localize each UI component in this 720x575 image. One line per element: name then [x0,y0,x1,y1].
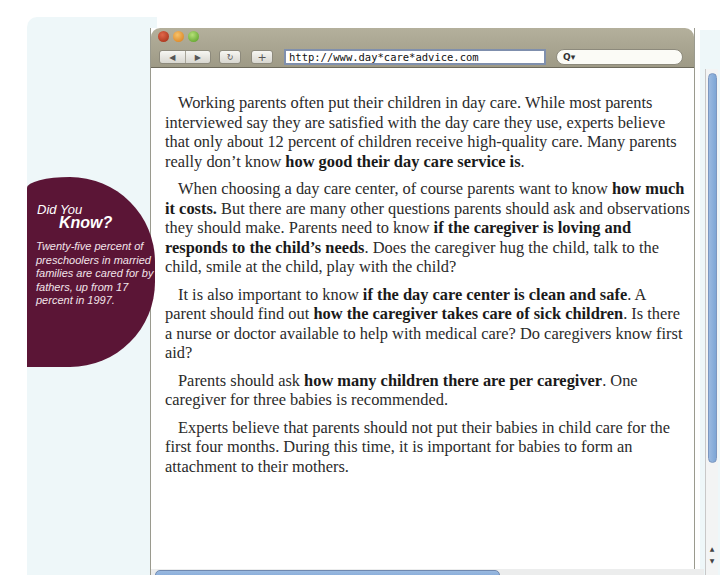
article-paragraph: It is also important to know if the day … [165,285,690,363]
bold-phrase: how good their day care service is [285,152,520,171]
forward-button[interactable]: ▶ [185,51,211,63]
bold-phrase: how the caregiver takes care of sick chi… [313,304,623,323]
article-paragraph: Experts believe that parents should not … [165,418,690,477]
vertical-scroll-thumb[interactable] [708,73,717,463]
minimize-window-button[interactable] [173,31,184,42]
text-span: Parents should ask [178,371,304,390]
back-button[interactable]: ◀ [160,51,185,63]
browser-window: ◀ ▶ ↻ + Q▾ Working parents often put the… [150,28,695,575]
plus-icon: + [257,51,266,64]
reload-button[interactable]: ↻ [219,50,241,64]
forward-arrow-icon: ▶ [186,51,211,63]
vertical-scrollbar[interactable]: ▲ ▼ [705,69,718,575]
article-content: Working parents often put their children… [151,69,704,569]
text-span: It is also important to know [178,285,363,304]
horizontal-scrollbar[interactable] [151,569,704,575]
browser-toolbar: ◀ ▶ ↻ + Q▾ [151,28,694,68]
add-bookmark-button[interactable]: + [251,50,273,64]
bold-phrase: if the day care center is clean and safe [363,285,627,304]
url-input[interactable] [284,49,546,65]
text-span: When choosing a day care center, of cour… [178,179,612,198]
article-paragraph: Parents should ask how many children the… [165,371,690,410]
callout-body: Twenty-five percent of preschoolers in m… [36,240,154,308]
reload-icon: ↻ [227,53,234,62]
bold-phrase: how many children there are per caregive… [304,371,602,390]
text-span: . [521,152,525,171]
search-icon: Q▾ [563,52,575,62]
scroll-down-arrow-icon[interactable]: ▼ [706,555,718,567]
back-arrow-icon: ◀ [160,51,185,63]
text-span: Experts believe that parents should not … [165,418,670,476]
zoom-window-button[interactable] [188,31,199,42]
search-input[interactable]: Q▾ [556,49,683,65]
scroll-up-arrow-icon[interactable]: ▲ [706,543,718,555]
horizontal-scroll-thumb[interactable] [155,570,500,575]
article-paragraph: When choosing a day care center, of cour… [165,179,690,277]
article-paragraph: Working parents often put their children… [165,93,690,171]
back-forward-buttons: ◀ ▶ [159,50,211,64]
close-window-button[interactable] [158,31,169,42]
callout-title-line2: Know? [59,214,112,232]
